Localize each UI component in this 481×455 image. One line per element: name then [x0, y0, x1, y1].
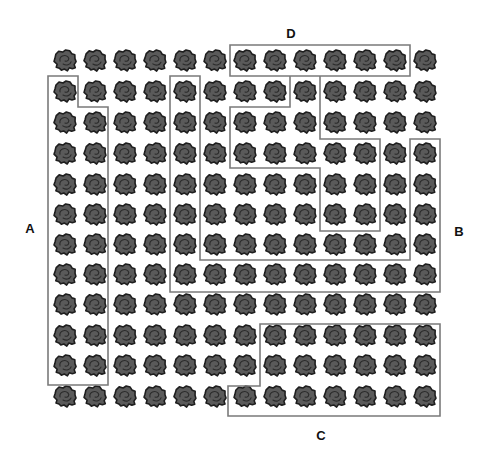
- region-label-d: D: [286, 27, 295, 40]
- region-outline-d: [230, 45, 410, 76]
- region-outline-inner: [230, 76, 380, 231]
- region-outline-c: [228, 324, 440, 416]
- region-outline-b: [170, 76, 440, 292]
- region-label-a: A: [25, 222, 34, 235]
- region-outlines: [0, 0, 481, 455]
- region-outline-a: [48, 76, 108, 385]
- region-label-c: C: [316, 429, 325, 442]
- grouping-diagram: A B C D: [0, 0, 481, 455]
- region-label-b: B: [454, 225, 463, 238]
